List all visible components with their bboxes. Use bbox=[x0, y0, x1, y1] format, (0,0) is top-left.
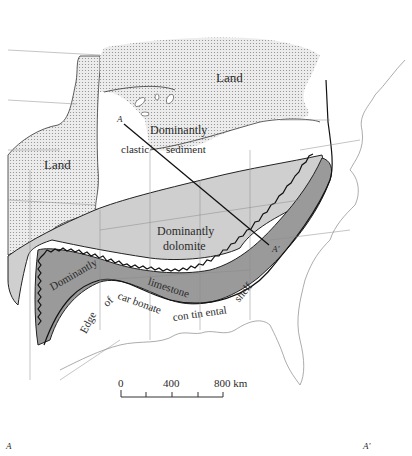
label-land-north: Land bbox=[216, 71, 243, 84]
label-dolomite-1: Dominantly bbox=[157, 225, 214, 237]
scale-tick-0: 0 bbox=[118, 378, 124, 389]
label-clastic-2b: sediment bbox=[166, 144, 206, 155]
scale-tick-400: 400 bbox=[163, 378, 180, 389]
label-clastic-1: Dominantly bbox=[150, 124, 207, 136]
label-section-a: A bbox=[117, 115, 123, 124]
cross-section-left-label: A bbox=[6, 442, 12, 451]
label-land-west: Land bbox=[44, 158, 71, 171]
label-dolomite-2: dolomite bbox=[163, 240, 206, 252]
cross-section-right-label: A' bbox=[363, 442, 370, 451]
land-north-region bbox=[100, 38, 320, 151]
label-clastic-2a: clastic bbox=[121, 144, 149, 155]
label-section-a-prime: A' bbox=[272, 245, 279, 254]
scale-bar bbox=[121, 390, 223, 397]
scale-tick-800: 800 km bbox=[214, 378, 247, 389]
